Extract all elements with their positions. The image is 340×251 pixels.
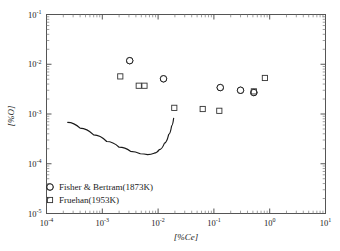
y-tick-label: 10-2	[28, 59, 42, 69]
y-tick-label: 10-4	[28, 158, 42, 168]
x-axis-title: [%Ce]	[174, 232, 199, 242]
data-point-marker	[217, 84, 223, 90]
equilibrium-curve	[68, 118, 174, 154]
data-point-marker	[142, 83, 147, 88]
chart-figure: 10-410-310-210-1100101 10-110-210-310-41…	[0, 0, 340, 251]
y-axis-title: [%O]	[6, 105, 16, 126]
equilibrium-curve-group	[68, 118, 174, 154]
data-point-marker	[237, 87, 243, 93]
y-tick-label: 10-1	[28, 9, 42, 19]
data-point-marker	[262, 75, 267, 80]
data-point-marker	[200, 106, 205, 111]
data-point-marker	[127, 57, 133, 63]
x-axis-tick-labels: 10-410-310-210-1100101	[40, 217, 332, 227]
x-tick-label: 10-1	[207, 217, 221, 227]
y-axis-tick-labels: 10-110-210-310-410-5	[28, 9, 42, 218]
legend-marker-half-circle	[47, 184, 53, 190]
x-tick-label: 10-2	[151, 217, 165, 227]
data-point-marker	[160, 76, 166, 82]
x-tick-label: 10-4	[40, 217, 54, 227]
data-series-group	[118, 57, 268, 113]
x-tick-label: 100	[264, 217, 276, 227]
scatter-plot-svg: 10-410-310-210-1100101 10-110-210-310-41…	[0, 0, 340, 251]
data-point-marker	[118, 74, 123, 79]
series-fisher-bertram	[127, 57, 258, 95]
x-tick-label: 101	[320, 217, 332, 227]
data-point-marker	[217, 108, 222, 113]
legend-label: Fruehan(1953K)	[59, 195, 119, 205]
data-point-marker	[136, 83, 141, 88]
y-tick-label: 10-3	[28, 109, 42, 119]
data-point-marker	[172, 105, 177, 110]
series-fruehan	[118, 74, 268, 114]
legend-label: Fisher & Bertram(1873K)	[59, 182, 153, 192]
chart-legend: Fisher & Bertram(1873K)Fruehan(1953K)	[47, 182, 153, 205]
x-tick-label: 10-3	[96, 217, 110, 227]
